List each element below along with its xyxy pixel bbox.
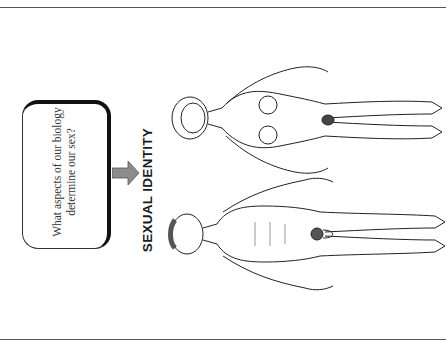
female-figure (160, 60, 446, 180)
male-figure (165, 172, 446, 312)
arrow-right-icon (112, 160, 140, 186)
diagram-title: SEXUAL IDENTITY (140, 128, 155, 252)
top-rule (0, 7, 446, 8)
bottom-rule (0, 339, 446, 340)
question-text: What aspects of our biology determine ou… (50, 100, 78, 244)
